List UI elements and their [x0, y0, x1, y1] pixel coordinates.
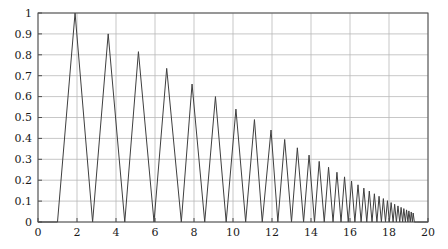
y-axis-tick-labels: 00.10.20.30.40.50.60.70.80.91 — [15, 7, 33, 229]
x-tick-label: 18 — [382, 226, 396, 239]
x-tick-label: 6 — [152, 226, 159, 239]
x-tick-label: 20 — [421, 226, 435, 239]
y-tick-label: 0.9 — [15, 28, 33, 41]
x-tick-label: 8 — [191, 226, 198, 239]
y-tick-label: 0 — [25, 216, 32, 229]
x-tick-label: 14 — [304, 226, 318, 239]
x-tick-label: 0 — [35, 226, 42, 239]
x-tick-label: 4 — [113, 226, 120, 239]
y-tick-label: 0.8 — [15, 49, 33, 62]
x-tick-label: 2 — [74, 226, 81, 239]
x-tick-label: 10 — [226, 226, 240, 239]
chart-figure: 00.10.20.30.40.50.60.70.80.91 0246810121… — [0, 0, 448, 249]
x-tick-label: 12 — [265, 226, 279, 239]
decaying-oscillation-chart: 00.10.20.30.40.50.60.70.80.91 0246810121… — [0, 0, 448, 249]
y-tick-label: 0.1 — [15, 195, 33, 208]
x-tick-label: 16 — [343, 226, 357, 239]
y-tick-label: 1 — [25, 7, 32, 20]
y-tick-label: 0.5 — [15, 111, 33, 124]
y-tick-label: 0.7 — [15, 70, 33, 83]
y-tick-label: 0.3 — [15, 153, 33, 166]
y-tick-label: 0.4 — [15, 132, 33, 145]
y-tick-label: 0.2 — [15, 174, 33, 187]
y-tick-label: 0.6 — [15, 90, 33, 103]
